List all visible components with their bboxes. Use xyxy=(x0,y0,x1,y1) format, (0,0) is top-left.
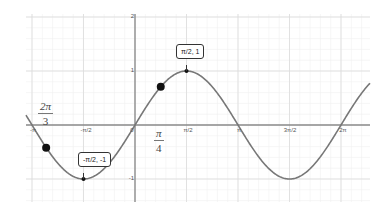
x-tick-half-pi: π/2 xyxy=(183,127,192,133)
x-tick-neg-pi: -π xyxy=(30,127,36,133)
peak-point-label: π/2, 1 xyxy=(176,44,204,59)
fraction-numerator: π xyxy=(154,128,164,141)
y-tick-neg1: -1 xyxy=(124,175,134,181)
sine-plot xyxy=(0,0,389,212)
fraction-denominator: 3 xyxy=(38,114,53,127)
highlight-dot xyxy=(42,144,50,152)
x-tick-zero: 0 xyxy=(130,127,133,133)
y-tick-1: 1 xyxy=(126,67,134,73)
axes xyxy=(26,14,370,202)
x-tick-neg-half-pi: -π/2 xyxy=(80,127,91,133)
fraction-numerator: 2π xyxy=(38,101,53,114)
annotation-pi-over-4: π 4 xyxy=(154,128,164,154)
fraction-denominator: 4 xyxy=(154,141,164,154)
trough-point-label: -π/2, -1 xyxy=(78,152,111,167)
annotation-2pi-over-3: 2π 3 xyxy=(38,101,53,127)
x-tick-2pi: 2π xyxy=(339,127,346,133)
grid xyxy=(26,14,370,202)
x-tick-pi: π xyxy=(237,127,241,133)
highlight-dot xyxy=(157,83,165,91)
highlighted-points xyxy=(42,65,188,181)
y-tick-2: 2 xyxy=(126,13,134,19)
x-tick-3-half-pi: 3π/2 xyxy=(284,127,296,133)
